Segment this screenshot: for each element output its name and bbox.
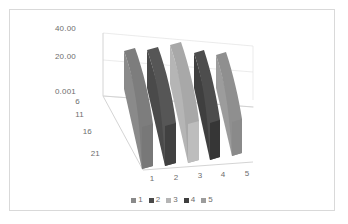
legend-label: 5: [208, 196, 212, 204]
legend-swatch-icon: [201, 198, 206, 203]
chart-legend: 1 2 3 4 5: [10, 196, 334, 204]
depth-axis-tick-6: 6: [58, 97, 80, 106]
z-axis-tick-40: 40.00: [44, 24, 76, 33]
legend-item-2[interactable]: 2: [149, 196, 160, 204]
category-axis-tick-2: 2: [169, 173, 183, 182]
legend-label: 3: [173, 196, 177, 204]
plot-area: 40.00 20.00 0.001 6 11 16 21 1 2 3 4 5 1…: [10, 10, 334, 210]
z-axis-tick-0: 0.001: [44, 87, 76, 96]
depth-axis-tick-21: 21: [78, 149, 100, 158]
depth-axis-tick-16: 16: [70, 127, 92, 136]
legend-swatch-icon: [131, 198, 136, 203]
category-axis-tick-5: 5: [240, 169, 254, 178]
category-axis-tick-4: 4: [216, 170, 230, 179]
depth-axis-tick-11: 11: [62, 110, 84, 119]
chart-frame: 40.00 20.00 0.001 6 11 16 21 1 2 3 4 5 1…: [9, 9, 335, 211]
z-axis-tick-20: 20.00: [44, 52, 76, 61]
legend-swatch-icon: [166, 198, 171, 203]
category-axis-tick-1: 1: [145, 174, 159, 183]
category-axis-tick-3: 3: [193, 171, 207, 180]
legend-item-3[interactable]: 3: [166, 196, 177, 204]
legend-item-1[interactable]: 1: [131, 196, 142, 204]
legend-label: 1: [138, 196, 142, 204]
legend-swatch-icon: [149, 198, 154, 203]
legend-label: 4: [191, 196, 195, 204]
legend-swatch-icon: [184, 198, 189, 203]
legend-label: 2: [156, 196, 160, 204]
legend-item-5[interactable]: 5: [201, 196, 212, 204]
legend-item-4[interactable]: 4: [184, 196, 195, 204]
